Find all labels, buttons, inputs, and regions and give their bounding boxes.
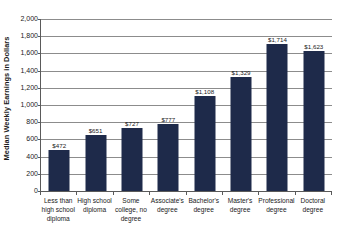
bar-slot: $777 [150, 19, 186, 191]
x-axis-category-label: Bachelor's degree [186, 196, 222, 214]
bar [49, 150, 70, 191]
y-axis-tickmark [38, 139, 41, 140]
bars-layer: $472$651$727$777$1,108$1,329$1,714$1,623 [41, 19, 332, 191]
x-axis-tickmark [295, 191, 296, 195]
bar-value-label: $727 [125, 120, 139, 127]
y-axis-tickmark [38, 19, 41, 20]
x-axis-tickmark [186, 191, 187, 195]
x-axis-tickmark [76, 191, 77, 195]
bar-slot: $651 [77, 19, 113, 191]
bar-value-label: $1,329 [232, 69, 251, 76]
x-axis-category-label: Some college, no degree [113, 196, 149, 224]
y-axis-tick-label: 200 [12, 170, 38, 178]
y-axis-tick-label: 2,000 [12, 15, 38, 23]
bar [85, 135, 106, 191]
x-axis-category-label: Master's degree [222, 196, 258, 214]
bar-value-label: $1,714 [268, 36, 287, 43]
x-axis-tickmark [222, 191, 223, 195]
bar-slot: $727 [114, 19, 150, 191]
bar-slot: $1,623 [296, 19, 332, 191]
bar-slot: $472 [41, 19, 77, 191]
x-axis-tickmarks [40, 191, 332, 195]
plot-area: $472$651$727$777$1,108$1,329$1,714$1,623 [40, 19, 332, 192]
x-axis-category-label: Less than high school diploma [40, 196, 76, 224]
bar-value-label: $651 [89, 127, 103, 134]
y-axis-tick-label: 800 [12, 118, 38, 126]
y-axis-title-text: Median Weekly Earnings in Dollars [3, 36, 12, 160]
x-axis-tickmark [113, 191, 114, 195]
x-axis-category-labels: Less than high school diplomaHigh school… [40, 196, 331, 238]
y-axis-tick-label: 1,400 [12, 67, 38, 75]
x-axis-tickmark [40, 191, 41, 195]
y-axis-tick-label: 1,200 [12, 84, 38, 92]
y-axis-tickmark [38, 36, 41, 37]
y-axis-tickmark [38, 157, 41, 158]
y-axis-tick-label: 600 [12, 135, 38, 143]
y-axis-tickmark [38, 174, 41, 175]
y-axis-tickmark [38, 71, 41, 72]
y-axis-tick-label: 0 [12, 187, 38, 195]
y-axis-tickmark [38, 53, 41, 54]
x-axis-category-label: Doctoral degree [295, 196, 331, 214]
bar-slot: $1,329 [223, 19, 259, 191]
y-axis-tickmark [38, 88, 41, 89]
bar-slot: $1,714 [259, 19, 295, 191]
bar-chart: Median Weekly Earnings in Dollars 2,0001… [0, 0, 338, 238]
x-axis-category-label: Associate's degree [149, 196, 185, 214]
y-axis-tickmark [38, 122, 41, 123]
y-axis-tick-label: 400 [12, 153, 38, 161]
bar [158, 124, 179, 191]
x-axis-tickmark [258, 191, 259, 195]
bar-slot: $1,108 [187, 19, 223, 191]
bar [303, 51, 324, 191]
x-axis-tickmark [149, 191, 150, 195]
x-axis-category-label: Professional degree [258, 196, 294, 214]
y-axis-tickmark [38, 105, 41, 106]
y-axis-tick-label: 1,800 [12, 32, 38, 40]
y-axis-tick-label: 1,600 [12, 49, 38, 57]
bar-value-label: $777 [161, 116, 175, 123]
bar [121, 128, 142, 191]
bar-value-label: $1,623 [304, 43, 323, 50]
x-axis-category-label: High school diploma [76, 196, 112, 214]
bar [194, 96, 215, 191]
x-axis-tickmark [331, 191, 332, 195]
bar-value-label: $472 [52, 142, 66, 149]
bar [267, 44, 288, 191]
y-axis-tick-label: 1,000 [12, 101, 38, 109]
y-axis-tick-labels: 2,0001,8001,6001,4001,2001,0008006004002… [12, 13, 38, 191]
bar-value-label: $1,108 [195, 88, 214, 95]
bar [231, 77, 252, 191]
